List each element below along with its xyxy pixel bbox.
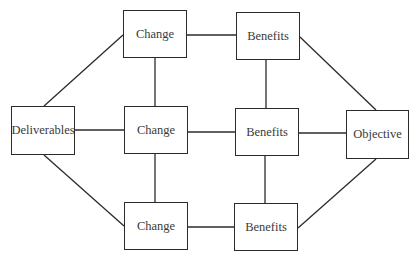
node-change-top: Change [123,10,187,58]
edge-benefits-bot-objective [298,159,376,228]
edge-deliverables-change-bot [44,155,124,226]
node-benefits-top: Benefits [236,12,300,60]
node-benefits-mid: Benefits [235,108,299,156]
node-deliverables: Deliverables [11,106,75,155]
node-label: Benefits [246,125,288,140]
edge-benefits-top-objective [300,37,376,110]
node-label: Deliverables [11,123,74,138]
diagram-canvas: Deliverables Change Change Change Benefi… [0,0,419,266]
edge-deliverables-change-top [44,35,123,106]
node-objective: Objective [346,110,409,159]
node-label: Change [136,27,174,42]
node-label: Benefits [245,220,287,235]
node-label: Change [137,219,175,234]
node-label: Change [137,123,175,138]
node-label: Objective [353,127,402,142]
node-change-mid: Change [124,106,188,154]
node-change-bot: Change [124,202,188,250]
node-label: Benefits [247,29,289,44]
node-benefits-bot: Benefits [234,203,298,251]
